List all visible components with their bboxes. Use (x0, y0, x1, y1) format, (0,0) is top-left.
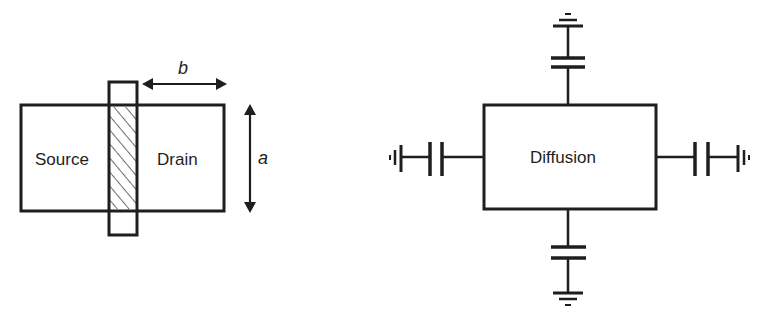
capacitor-bottom (551, 209, 586, 305)
diagram-canvas: Source Drain b a Diffusion (0, 0, 768, 322)
dimension-b-label: b (178, 58, 188, 78)
ground-icon (738, 145, 749, 172)
capacitor-right (656, 142, 749, 176)
dimension-a-arrow (244, 104, 256, 213)
capacitor-left (390, 142, 484, 176)
ground-icon (553, 14, 583, 26)
channel-hatch (110, 107, 136, 209)
drain-label: Drain (157, 150, 198, 169)
mosfet-layout: Source Drain b a (21, 58, 268, 235)
capacitor-top (551, 14, 585, 105)
dimension-b-arrow (142, 78, 227, 90)
diffusion-label: Diffusion (530, 148, 596, 167)
source-label: Source (35, 150, 89, 169)
dimension-a-label: a (258, 148, 268, 168)
ground-icon (553, 293, 583, 305)
diffusion-model: Diffusion (390, 14, 749, 305)
ground-icon (390, 145, 401, 172)
